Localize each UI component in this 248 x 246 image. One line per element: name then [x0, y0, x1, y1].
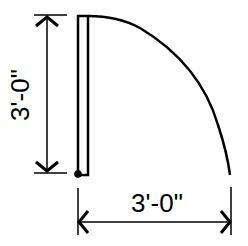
hinge-point-icon: [74, 170, 82, 178]
door-leaf: [74, 16, 88, 178]
vertical-dimension: 3'-0": [5, 15, 67, 173]
door-swing-diagram: 3'-0" 3'-0": [0, 0, 248, 246]
horizontal-dim-label: 3'-0": [131, 188, 183, 218]
door-swing-arc: [88, 16, 230, 175]
horizontal-dimension: 3'-0": [78, 187, 231, 235]
vertical-dim-label: 3'-0": [5, 69, 35, 121]
door-panel: [78, 16, 88, 175]
